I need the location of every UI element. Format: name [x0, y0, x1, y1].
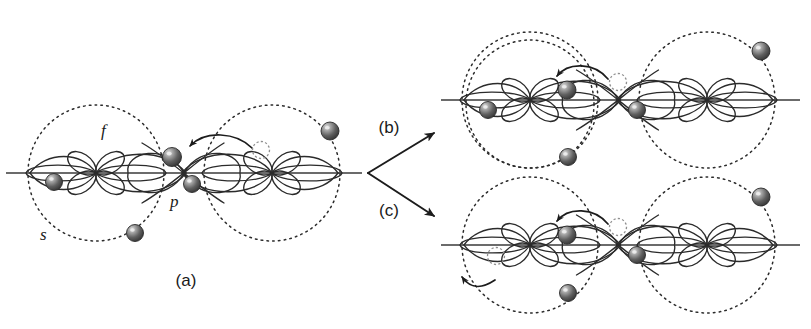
- electron-ghost-right-a: [253, 142, 270, 159]
- orbital-transfer-figure: fps(a)(b)(c): [0, 0, 811, 329]
- electron-highlight: [167, 152, 172, 156]
- electron-highlight: [632, 250, 637, 253]
- flow-arrow-to-c: [368, 173, 434, 216]
- orbital-label-s: s: [40, 225, 47, 244]
- electron-sphere: [558, 226, 576, 244]
- electron-sphere: [558, 81, 576, 99]
- electron-sphere: [184, 176, 201, 193]
- electron-transfer-arrow-c: [557, 211, 608, 224]
- electron-bond-lower-a: [184, 176, 201, 193]
- electron-highlight: [756, 46, 761, 50]
- electron-left-inner-b: [480, 102, 497, 119]
- electron-sphere-ghost: [253, 142, 270, 159]
- electron-captured-b: [558, 81, 576, 99]
- electron-transfer-arrow-a: [190, 135, 252, 148]
- electron-captured-c: [558, 226, 576, 244]
- electron-right-outer-c: [752, 188, 770, 206]
- electron-left-inner-a: [46, 174, 63, 191]
- flow-arrow-to-b: [368, 133, 434, 173]
- electron-sphere-ghost: [610, 74, 627, 91]
- electron-sphere-ghost: [610, 219, 627, 236]
- electron-bond-lower-c: [629, 247, 646, 264]
- electron-highlight: [483, 105, 488, 108]
- electron-bond-upper-a: [163, 148, 182, 167]
- electron-highlight: [563, 152, 568, 155]
- electron-sphere: [163, 148, 182, 167]
- panel-caption-c: (c): [379, 201, 399, 220]
- electron-transfer-arrow-b: [557, 66, 608, 79]
- electron-left-lower-b: [560, 149, 577, 166]
- panel-c: (c): [379, 177, 800, 313]
- electron-highlight: [563, 288, 568, 291]
- flow-arrows-layer: [368, 133, 434, 216]
- electron-ejection-arrow-c: [462, 277, 495, 286]
- orbital-label-f: f: [101, 121, 108, 140]
- electron-highlight: [325, 126, 330, 130]
- panel-a: fps(a): [6, 105, 362, 290]
- electron-sphere: [46, 174, 63, 191]
- electron-highlight: [562, 85, 567, 89]
- panel-caption-a: (a): [176, 271, 197, 290]
- electron-highlight: [49, 177, 54, 180]
- electron-sphere: [752, 42, 770, 60]
- electron-sphere: [480, 102, 497, 119]
- panel-b: (b): [379, 32, 800, 168]
- panel-caption-b: (b): [379, 118, 400, 137]
- electron-sphere: [560, 149, 577, 166]
- electron-highlight: [632, 105, 637, 108]
- electron-sphere: [321, 122, 339, 140]
- electron-sphere: [629, 102, 646, 119]
- figure-canvas: fps(a)(b)(c): [0, 0, 811, 329]
- electron-sphere: [752, 188, 770, 206]
- electron-sphere: [127, 225, 144, 242]
- electron-ghost-bond-c: [610, 219, 627, 236]
- electron-sphere: [560, 285, 577, 302]
- electron-bond-lower-b: [629, 102, 646, 119]
- electron-highlight: [187, 179, 192, 182]
- electron-highlight: [130, 228, 135, 231]
- electron-highlight: [756, 192, 761, 196]
- electron-left-lower-a: [127, 225, 144, 242]
- electron-ghost-bond-b: [610, 74, 627, 91]
- panels-layer: fps(a)(b)(c): [6, 32, 800, 313]
- electron-left-lower-c: [560, 285, 577, 302]
- orbital-label-p: p: [169, 192, 179, 211]
- electron-right-outer-a: [321, 122, 339, 140]
- electron-highlight: [562, 230, 567, 234]
- electron-sphere: [629, 247, 646, 264]
- electron-right-outer-b: [752, 42, 770, 60]
